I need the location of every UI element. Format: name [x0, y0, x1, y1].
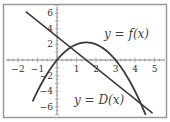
y-tick-label: −4: [40, 86, 54, 96]
label-f: y = f(x): [103, 27, 149, 41]
x-tick-label: 4: [132, 64, 138, 74]
label-D: y = D(x): [73, 93, 125, 107]
x-tick-label: −2: [11, 64, 24, 74]
y-tick-label: 6: [47, 8, 53, 18]
x-tick-label: 5: [152, 64, 158, 74]
chart: −2−112345642−2−4−6 y = f(x) y = D(x): [0, 0, 170, 122]
y-tick-label: −6: [40, 102, 54, 112]
x-tick-label: 1: [74, 64, 80, 74]
y-tick-label: 2: [47, 39, 53, 49]
x-tick-label: 3: [113, 64, 119, 74]
